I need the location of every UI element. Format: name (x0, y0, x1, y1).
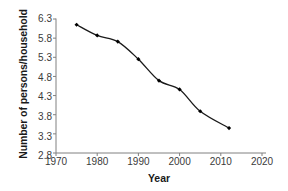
plot-area (0, 0, 288, 191)
data-markers (75, 23, 232, 131)
axis-lines (56, 19, 266, 154)
line-chart: Number of persons/household 6.3 5.8 5.3 … (0, 0, 288, 191)
data-line (77, 25, 229, 128)
data-point-1980 (95, 33, 99, 37)
